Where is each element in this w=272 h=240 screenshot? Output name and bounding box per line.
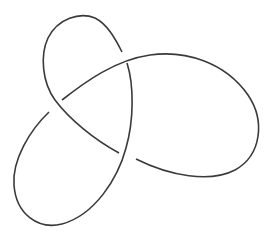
knot-diagram: Trefoil knot [0,0,272,240]
knot-arc-1 [14,63,132,225]
trefoil-knot [0,0,272,240]
knot-arc-2 [62,54,259,177]
